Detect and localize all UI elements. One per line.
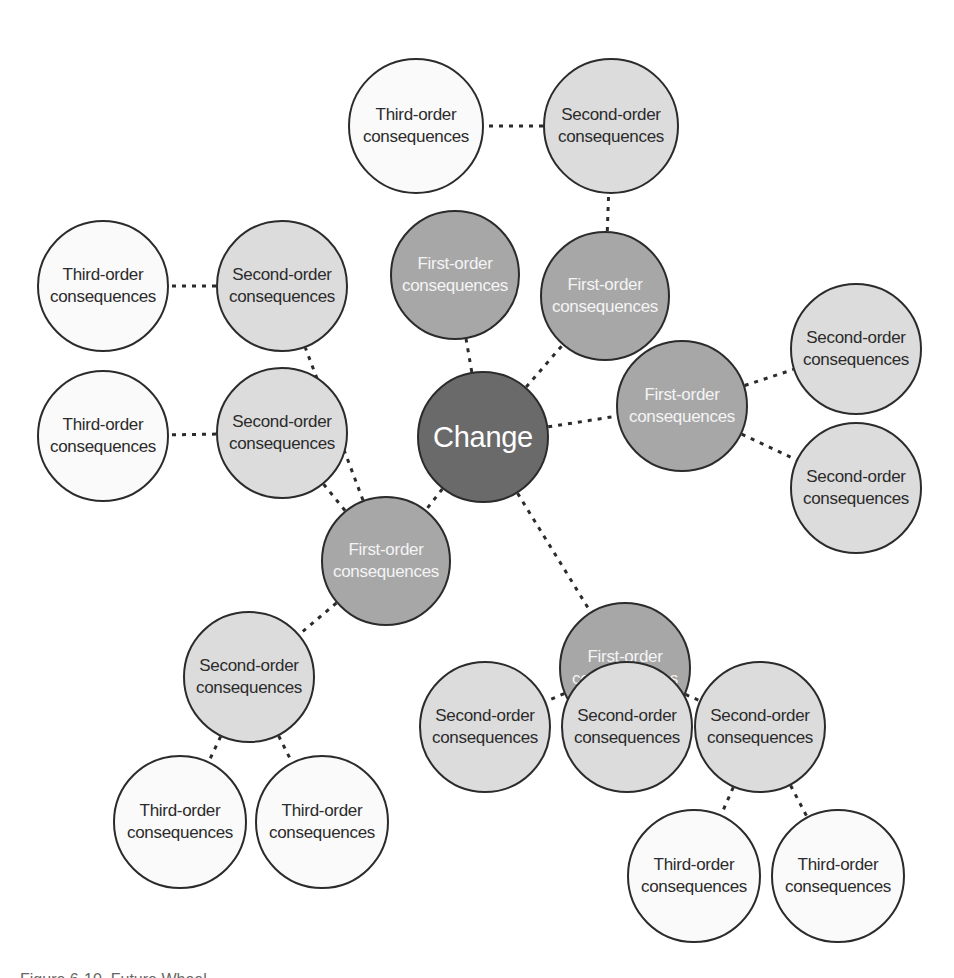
third-order-node: Third-orderconsequences: [627, 809, 761, 943]
node-label-line1: Second-order: [232, 264, 331, 286]
third-order-node: Third-orderconsequences: [113, 755, 247, 889]
node-label-line1: Second-order: [577, 705, 676, 727]
future-wheel-diagram: Change First-orderconsequencesFirst-orde…: [0, 0, 954, 978]
second-order-node: Second-orderconsequences: [694, 661, 826, 793]
second-order-node: Second-orderconsequences: [216, 220, 348, 352]
third-order-node: Third-orderconsequences: [37, 370, 169, 502]
node-label-line1: Second-order: [232, 411, 331, 433]
figure-caption: Figure 6-10. Future Wheel: [20, 968, 207, 978]
connector-f3-s5: [742, 434, 797, 460]
connector-center-f5: [518, 493, 591, 612]
change-node: Change: [417, 371, 549, 503]
node-label-line1: Second-order: [806, 466, 905, 488]
node-label-line2: consequences: [803, 349, 909, 371]
node-label-line2: consequences: [229, 286, 335, 308]
second-order-node: Second-orderconsequences: [183, 611, 315, 743]
node-label-line2: consequences: [269, 822, 375, 844]
node-label-line1: Third-order: [140, 800, 221, 822]
node-label-line2: consequences: [127, 822, 233, 844]
node-label-line1: Second-order: [199, 655, 298, 677]
node-label-line1: Second-order: [806, 327, 905, 349]
connector-s9-t6: [721, 787, 733, 814]
first-order-node: First-orderconsequences: [321, 496, 451, 626]
third-order-node: Third-orderconsequences: [37, 220, 169, 352]
node-label-line1: First-order: [567, 274, 642, 296]
node-label-line1: Third-order: [282, 800, 363, 822]
node-label-line2: consequences: [402, 275, 508, 297]
connector-s6-t4: [209, 737, 221, 762]
connector-f5-s7: [546, 694, 564, 702]
node-label-line1: First-order: [348, 539, 423, 561]
third-order-node: Third-orderconsequences: [255, 755, 389, 889]
first-order-node: First-orderconsequences: [390, 210, 520, 340]
connector-f4-s3: [324, 484, 345, 510]
node-label-line2: consequences: [196, 677, 302, 699]
node-label-line2: consequences: [229, 433, 335, 455]
second-order-node: Second-orderconsequences: [790, 283, 922, 415]
node-label-line2: consequences: [363, 126, 469, 148]
connector-center-f4: [426, 489, 442, 510]
change-label: Change: [433, 421, 533, 453]
node-label-line1: First-order: [644, 384, 719, 406]
node-label-line2: consequences: [803, 488, 909, 510]
node-label-line1: Third-order: [654, 854, 735, 876]
node-label-line1: First-order: [417, 253, 492, 275]
connector-center-f3: [548, 416, 617, 427]
node-label-line1: Third-order: [63, 264, 144, 286]
second-order-node: Second-orderconsequences: [543, 58, 679, 194]
connector-s9-t7: [791, 785, 807, 816]
node-label-line1: Third-order: [376, 104, 457, 126]
third-order-node: Third-orderconsequences: [771, 809, 905, 943]
connector-f4-s6: [299, 603, 336, 634]
node-label-line1: Second-order: [561, 104, 660, 126]
second-order-node: Second-orderconsequences: [216, 367, 348, 499]
connector-f5-s9: [685, 694, 699, 700]
connector-f2-s1: [607, 194, 608, 231]
node-label-line1: Third-order: [63, 414, 144, 436]
connector-center-f1: [466, 339, 472, 372]
node-label-line2: consequences: [574, 727, 680, 749]
node-label-line2: consequences: [707, 727, 813, 749]
node-label-line2: consequences: [50, 436, 156, 458]
node-label-line1: Third-order: [798, 854, 879, 876]
connector-center-f2: [526, 345, 562, 387]
third-order-node: Third-orderconsequences: [348, 58, 484, 194]
second-order-node: Second-orderconsequences: [419, 661, 551, 793]
first-order-node: First-orderconsequences: [540, 231, 670, 361]
node-label-line2: consequences: [50, 286, 156, 308]
second-order-node: Second-orderconsequences: [790, 422, 922, 554]
connector-f3-s4: [745, 370, 794, 386]
connector-s3-t3: [169, 434, 216, 435]
node-label-line2: consequences: [629, 406, 735, 428]
node-label-line2: consequences: [641, 876, 747, 898]
node-label-line1: Second-order: [435, 705, 534, 727]
second-order-node: Second-orderconsequences: [561, 661, 693, 793]
node-label-line2: consequences: [558, 126, 664, 148]
node-label-line2: consequences: [432, 727, 538, 749]
connector-s6-t5: [279, 736, 292, 762]
node-label-line2: consequences: [333, 561, 439, 583]
node-label-line2: consequences: [552, 296, 658, 318]
node-label-line1: Second-order: [710, 705, 809, 727]
first-order-node: First-orderconsequences: [616, 340, 748, 472]
node-label-line2: consequences: [785, 876, 891, 898]
